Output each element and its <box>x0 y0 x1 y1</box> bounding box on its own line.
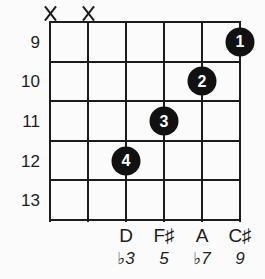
fret-number-label: 11 <box>0 113 40 130</box>
finger-dot: 2 <box>188 67 217 96</box>
string-line <box>125 22 127 222</box>
finger-dot: 4 <box>112 146 141 175</box>
finger-dot: 1 <box>226 27 255 56</box>
fret-number-label: 9 <box>0 33 40 50</box>
finger-number: 3 <box>160 113 169 129</box>
fret-number-label: 10 <box>0 73 40 90</box>
fret-line <box>49 140 241 142</box>
string-line <box>87 22 89 222</box>
string-line <box>201 22 203 222</box>
guitar-chord-diagram: 910111213 1234 DF♯AC♯ ♭35♭79 <box>0 0 265 279</box>
fret-line <box>49 21 241 23</box>
fret-line <box>49 61 241 63</box>
muted-string-x-icon <box>44 6 57 21</box>
fret-line <box>49 179 241 181</box>
finger-number: 1 <box>236 34 245 50</box>
finger-dot: 3 <box>150 107 179 136</box>
fret-number-label: 12 <box>0 152 40 169</box>
fret-line <box>49 219 241 221</box>
fret-line <box>49 100 241 102</box>
muted-string-x-icon <box>82 6 95 21</box>
finger-number: 4 <box>122 153 131 169</box>
fret-number-label: 13 <box>0 192 40 209</box>
string-line <box>49 22 51 222</box>
interval-label: 9 <box>218 250 262 267</box>
note-name-label: C♯ <box>218 226 262 245</box>
finger-number: 2 <box>198 73 207 89</box>
